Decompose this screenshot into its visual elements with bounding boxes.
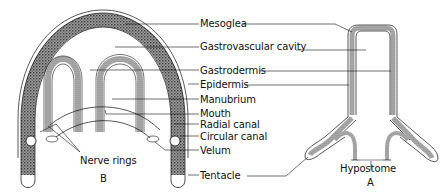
label-epidermis: Epidermis [200, 79, 249, 90]
polyp-figure [305, 25, 438, 162]
label-tentacle: Tentacle [200, 170, 241, 181]
label-hypostome: Hypostome [340, 163, 396, 174]
label-circular-canal: Circular canal [200, 131, 267, 142]
label-gastrovascular-cavity: Gastrovascular cavity [200, 41, 306, 52]
label-gastrodermis: Gastrodermis [200, 65, 266, 76]
label-manubrium: Manubrium [200, 94, 256, 105]
panel-label-medusa: B [100, 173, 107, 184]
panel-label-polyp: A [367, 177, 374, 188]
label-radial-canal: Radial canal [200, 119, 260, 130]
label-mesoglea: Mesoglea [200, 18, 247, 29]
label-nerve-rings: Nerve rings [80, 155, 137, 166]
label-velum: Velum [200, 145, 231, 156]
cnidarian-diagram: Mesoglea Gastrovascular cavity Gastroder… [0, 0, 445, 196]
label-mouth: Mouth [200, 108, 231, 119]
